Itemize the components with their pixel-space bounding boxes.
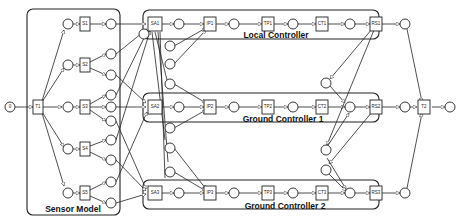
svg-text:IP2: IP2 [207, 104, 214, 109]
ground-controller-2-label: Ground Controller 2 [245, 201, 326, 211]
transition-sa1: SA1 [148, 17, 162, 31]
svg-text:S1: S1 [82, 21, 88, 26]
transition-rs3: RS3 [370, 186, 382, 200]
svg-text:SA3: SA3 [151, 190, 160, 195]
transition-tp3: TP3 [262, 186, 274, 200]
svg-text:T2: T2 [421, 104, 427, 109]
svg-text:CT3: CT3 [318, 190, 327, 195]
transition-ip1: IP1 [204, 17, 216, 31]
final-place [445, 102, 455, 112]
svg-text:S5: S5 [82, 190, 88, 195]
transition-tp2: TP2 [262, 100, 274, 114]
transition-t2: T2 [418, 100, 430, 114]
svg-text:TP3: TP3 [264, 190, 273, 195]
transition-s5: S5 [80, 186, 90, 200]
transition-t1: T1 [33, 100, 43, 114]
local-controller-label: Local Controller [243, 30, 309, 40]
svg-text:CT2: CT2 [318, 104, 327, 109]
svg-text:IP1: IP1 [207, 21, 214, 26]
transition-s3: S3 [80, 100, 90, 114]
sensor-model-label: Sensor Model [45, 204, 101, 214]
ground-controller-1-label: Ground Controller 1 [243, 114, 324, 124]
transition-rs2: RS2 [370, 100, 382, 114]
transition-s1: S1 [80, 17, 90, 31]
svg-text:IP3: IP3 [207, 190, 214, 195]
svg-text:S2: S2 [82, 62, 88, 67]
transition-s4: S4 [80, 142, 90, 156]
transition-sa3: SA3 [148, 186, 162, 200]
svg-text:CT1: CT1 [318, 21, 327, 26]
svg-text:SA2: SA2 [151, 104, 160, 109]
petri-net-diagram: Sensor Model Local Controller Ground Con… [0, 0, 471, 224]
transition-ct1: CT1 [316, 17, 328, 31]
transition-ct3: CT3 [316, 186, 328, 200]
svg-text:TP1: TP1 [264, 21, 273, 26]
transition-s2: S2 [80, 58, 90, 72]
svg-text:S4: S4 [82, 146, 88, 151]
svg-text:T1: T1 [35, 104, 41, 109]
transition-tp1: TP1 [262, 17, 274, 31]
svg-text:S3: S3 [82, 104, 88, 109]
transition-ip3: IP3 [204, 186, 216, 200]
transition-rs1: RS1 [370, 17, 382, 31]
svg-text:RS3: RS3 [372, 190, 381, 195]
svg-text:RS1: RS1 [372, 21, 381, 26]
transition-ip2: IP2 [204, 100, 216, 114]
transition-ct2: CT2 [316, 100, 328, 114]
svg-text:SA1: SA1 [151, 21, 160, 26]
svg-text:RS2: RS2 [372, 104, 381, 109]
transition-sa2: SA2 [148, 100, 162, 114]
svg-text:TP2: TP2 [264, 104, 273, 109]
